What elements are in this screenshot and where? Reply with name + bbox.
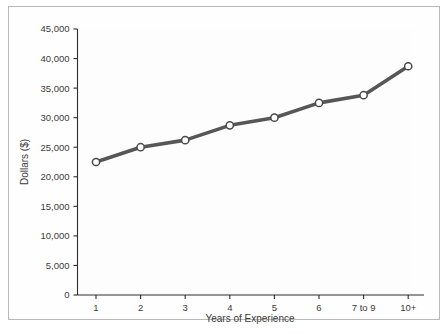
plot-area-background — [78, 29, 414, 295]
x-tick-label: 6 — [316, 302, 321, 313]
chart-figure: 05,00010,00015,00020,00025,00030,00035,0… — [0, 0, 448, 334]
y-tick-label: 20,000 — [40, 171, 69, 182]
line-chart: 05,00010,00015,00020,00025,00030,00035,0… — [0, 0, 448, 334]
x-tick-label: 2 — [138, 302, 143, 313]
x-axis-title: Years of Experience — [205, 313, 295, 324]
data-point-marker — [182, 137, 189, 144]
data-point-marker — [92, 158, 99, 165]
y-tick-label: 0 — [64, 289, 69, 300]
data-point-marker — [360, 92, 367, 99]
x-tick-label: 5 — [272, 302, 277, 313]
x-tick-label: 3 — [183, 302, 188, 313]
x-tick-label: 4 — [227, 302, 232, 313]
y-tick-label: 5,000 — [46, 260, 70, 271]
y-tick-label: 35,000 — [40, 83, 69, 94]
y-tick-label: 10,000 — [40, 230, 69, 241]
x-tick-label: 7 to 9 — [352, 302, 376, 313]
y-tick-label: 45,000 — [40, 23, 69, 34]
data-point-marker — [405, 63, 412, 70]
data-point-marker — [315, 99, 322, 106]
data-point-marker — [226, 122, 233, 129]
y-axis-ticks: 05,00010,00015,00020,00025,00030,00035,0… — [40, 23, 77, 300]
y-tick-label: 25,000 — [40, 142, 69, 153]
x-axis-ticks: 1234567 to 910+ — [93, 295, 416, 313]
y-tick-label: 40,000 — [40, 53, 69, 64]
data-point-marker — [137, 144, 144, 151]
x-tick-label: 10+ — [400, 302, 417, 313]
x-tick-label: 1 — [93, 302, 98, 313]
y-tick-label: 15,000 — [40, 201, 69, 212]
y-axis-title: Dollars ($) — [19, 139, 30, 185]
y-tick-label: 30,000 — [40, 112, 69, 123]
data-point-marker — [271, 114, 278, 121]
